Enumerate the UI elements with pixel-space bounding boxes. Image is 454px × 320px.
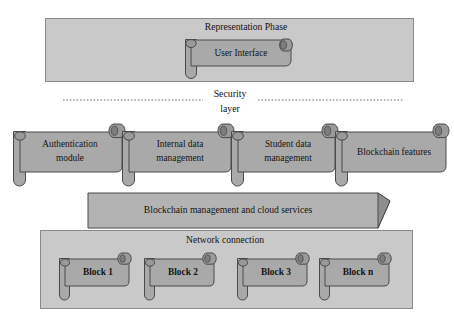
block-left-curl [145,259,154,266]
user-interface-right-roll-curl [281,41,287,49]
diagram-canvas: Representation Phase User Interface Secu… [0,0,454,320]
module-left-curl [233,132,244,140]
block-label: Block 1 [83,267,113,277]
block-left-curl [320,259,329,266]
block-label: Block 2 [168,267,198,277]
security-layer-divider: Security layer [63,88,403,114]
architecture-diagram: Representation Phase User Interface Secu… [0,0,454,320]
block-label: Block n [343,267,374,277]
module-right-roll-curl [220,126,226,135]
module-label-line1: Authentication [42,139,98,149]
module-left-curl [337,132,348,140]
module-label-line2: management [264,153,312,163]
module-right-roll-curl [324,126,330,135]
module-scroll-student-data-management: Student data management [232,124,339,186]
module-scroll-authentication-module: Authentication module [14,124,126,186]
banner-label: Blockchain management and cloud services [144,204,313,215]
block-left-curl [60,259,69,266]
module-right-roll-curl [111,126,117,135]
block-right-roll-curl [120,255,125,263]
module-label-line1: Internal data [157,139,204,149]
user-interface-label: User Interface [215,48,268,58]
security-layer-label-line2: layer [220,103,240,114]
security-layer-label-line1: Security [214,88,247,99]
blockchain-management-banner: Blockchain management and cloud services [88,193,390,228]
module-right-roll-curl [435,126,441,135]
module-body [129,132,231,172]
module-body [238,132,335,172]
module-label-line1: Blockchain features [357,147,431,157]
module-label-line2: module [56,153,84,163]
representation-phase-label: Representation Phase [205,21,287,32]
network-connection-label: Network connection [186,234,264,245]
block-left-curl [238,259,247,266]
module-scroll-internal-data-management: Internal data management [123,124,235,186]
module-left-curl [124,132,135,140]
module-label-line1: Student data [265,139,311,149]
user-interface-left-curl [186,40,196,48]
module-body [20,132,122,172]
module-left-curl [15,132,26,140]
module-label-line2: management [156,153,204,163]
block-right-roll-curl [298,255,303,263]
block-right-roll-curl [205,255,210,263]
module-scroll-blockchain-features: Blockchain features [336,124,450,186]
block-label: Block 3 [261,267,291,277]
banner-fold [378,193,390,228]
block-right-roll-curl [380,255,385,263]
